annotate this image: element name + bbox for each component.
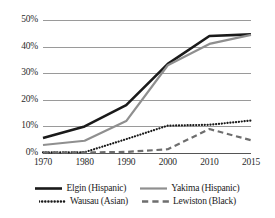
x-axis-tick-label: 1990: [117, 158, 135, 168]
x-axis-tick-label: 2015: [242, 158, 260, 168]
series-line: [43, 121, 251, 153]
series-lines-group: [43, 20, 251, 153]
legend-row: Wausau (Asian)Lewiston (Black): [39, 197, 236, 207]
x-axis-tick-label: 2010: [200, 158, 218, 168]
series-line: [43, 34, 251, 138]
chart-legend: Elgin (Hispanic)Yakima (Hispanic)Wausau …: [0, 184, 275, 206]
legend-swatch-icon: [142, 197, 169, 206]
legend-item[interactable]: Yakima (Hispanic): [140, 184, 239, 194]
y-axis-tick-label: 50%: [21, 15, 43, 25]
line-chart: 0%10%20%30%40%50% 1970198019902000201020…: [0, 0, 275, 218]
legend-row: Elgin (Hispanic)Yakima (Hispanic): [35, 184, 239, 194]
legend-label: Elgin (Hispanic): [66, 184, 126, 194]
legend-swatch-icon: [39, 197, 66, 206]
x-axis-tick-label: 1970: [34, 158, 52, 168]
y-axis-tick-label: 40%: [21, 42, 43, 52]
y-axis-tick-label: 20%: [21, 95, 43, 105]
x-axis-tick-label: 1980: [75, 158, 93, 168]
x-axis-tick-label: 2000: [159, 158, 177, 168]
y-axis-tick-label: 10%: [21, 122, 43, 132]
legend-item[interactable]: Wausau (Asian): [39, 197, 128, 207]
legend-item[interactable]: Elgin (Hispanic): [35, 184, 126, 194]
legend-swatch-icon: [35, 184, 62, 193]
legend-item[interactable]: Lewiston (Black): [142, 197, 236, 207]
plot-area: 0%10%20%30%40%50% 1970198019902000201020…: [43, 20, 251, 153]
legend-swatch-icon: [140, 184, 167, 193]
legend-label: Yakima (Hispanic): [171, 184, 239, 194]
legend-label: Lewiston (Black): [173, 197, 236, 207]
y-axis-tick-label: 30%: [21, 68, 43, 78]
legend-label: Wausau (Asian): [70, 197, 128, 207]
